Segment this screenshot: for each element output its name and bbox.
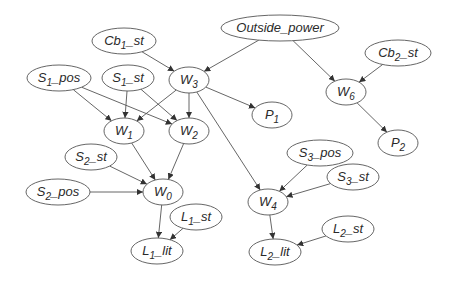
edge-L2_st-to-L2_lit xyxy=(297,236,326,245)
node-S1_pos: S1_pos xyxy=(27,65,91,91)
node-W4: W4 xyxy=(248,189,288,215)
edge-S3_st-to-W4 xyxy=(286,184,330,197)
edge-W6-to-P2 xyxy=(357,103,387,132)
edge-Outside_power-to-W6 xyxy=(293,41,335,82)
node-Cb1_st: Cb1_st xyxy=(92,28,156,54)
edge-S3_pos-to-W4 xyxy=(279,165,307,191)
edge-Cb2_st-to-W6 xyxy=(359,65,383,83)
edge-Cb1_st-to-W3 xyxy=(142,52,174,71)
edge-Outside_power-to-W3 xyxy=(204,40,259,71)
edge-W0-to-L1_lit xyxy=(158,205,161,238)
node-W3: W3 xyxy=(169,67,209,93)
edge-W3-to-P1 xyxy=(206,87,255,108)
edge-W3-to-W4 xyxy=(197,92,260,190)
edge-L1_st-to-L1_lit xyxy=(170,228,183,239)
edge-W2-to-W0 xyxy=(168,144,183,180)
edge-S1_pos-to-W1 xyxy=(73,90,111,121)
node-S2_pos: S2_pos xyxy=(26,179,90,205)
node-W1: W1 xyxy=(104,118,144,144)
node-W2: W2 xyxy=(169,118,209,144)
nodes-layer: Outside_powerCb1_stCb2_stS1_posS1_stW3W6… xyxy=(26,15,431,265)
node-S3_st: S3_st xyxy=(327,164,379,190)
edge-W4-to-L2_lit xyxy=(270,215,273,239)
edge-S1_st-to-W1 xyxy=(125,91,127,118)
node-L1_lit: L1_lit xyxy=(131,238,183,264)
node-L1_st: L1_st xyxy=(170,204,222,230)
node-S2_st: S2_st xyxy=(65,144,117,170)
node-label: Outside_power xyxy=(236,20,324,35)
diagram-canvas: Outside_powerCb1_stCb2_stS1_posS1_stW3W6… xyxy=(0,0,453,281)
node-W6: W6 xyxy=(326,79,366,105)
node-P2: P2 xyxy=(378,130,418,156)
edge-W3-to-W1 xyxy=(137,90,176,121)
node-S1_st: S1_st xyxy=(102,65,154,91)
directed-graph: Outside_powerCb1_stCb2_stS1_posS1_stW3W6… xyxy=(0,0,453,281)
node-P1: P1 xyxy=(252,102,292,128)
node-Outside_power: Outside_power xyxy=(221,15,339,41)
node-L2_st: L2_st xyxy=(322,216,374,242)
edge-W1-to-W0 xyxy=(132,143,156,180)
node-W0: W0 xyxy=(143,179,183,205)
node-Cb2_st: Cb2_st xyxy=(365,40,431,66)
node-L2_lit: L2_lit xyxy=(249,239,301,265)
node-S3_pos: S3_pos xyxy=(287,140,353,166)
edge-S2_st-to-W0 xyxy=(110,166,147,184)
